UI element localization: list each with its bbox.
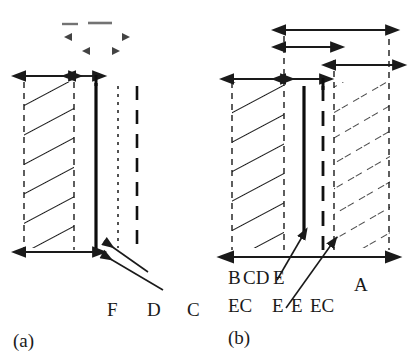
- panel-a-faded-marks: [62, 23, 130, 55]
- panel-b-label-EC-right: EC: [310, 295, 334, 317]
- panel-a-hatched-body: [24, 82, 74, 248]
- panel-a-group: [24, 23, 163, 290]
- panel-b-label-A: A: [354, 274, 368, 296]
- panel-b-caption: (b): [228, 327, 250, 349]
- panel-b-group: [232, 28, 394, 308]
- faded-arrow-right-outer: [122, 33, 130, 41]
- panel-b-hatched-body-right: [334, 82, 390, 248]
- panel-a-label-D: D: [147, 299, 161, 321]
- panel-b-label-E-a: E: [272, 295, 284, 317]
- panel-a-caption: (a): [13, 330, 34, 352]
- panel-b-label-CD: CD: [243, 267, 269, 289]
- faded-arrow-right-inner: [112, 47, 120, 55]
- panel-a-label-F: F: [107, 299, 118, 321]
- diagram-svg: [0, 0, 415, 362]
- panel-b-label-E-b: E: [291, 295, 303, 317]
- panel-b-hatched-body-left: [232, 82, 284, 248]
- panel-b-label-B: B: [228, 267, 241, 289]
- faded-arrow-left-inner: [82, 47, 90, 55]
- faded-arrow-left-outer: [64, 33, 72, 41]
- panel-a-leader-lower: [102, 254, 163, 290]
- figure-canvas: F D C (a) B CD E A EC E E EC (b): [0, 0, 415, 362]
- panel-a-label-C: C: [187, 299, 200, 321]
- panel-b-label-EC-left: EC: [228, 295, 252, 317]
- panel-b-label-E-row1: E: [273, 267, 285, 289]
